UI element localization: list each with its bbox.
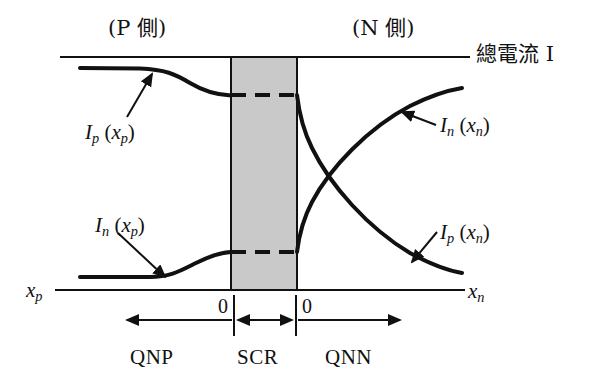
ip-xn-open-paren: ( xyxy=(454,220,466,244)
ip-xn-arg: x xyxy=(466,220,475,244)
leader-in-xp xyxy=(118,233,165,277)
in-xp-arg: x xyxy=(121,213,130,237)
label-total-current: 總電流 I xyxy=(476,44,554,65)
label-p-side: (P 側) xyxy=(108,18,166,39)
in-xp-symbol: I xyxy=(95,213,102,237)
label-in-xn: In (xn) xyxy=(440,115,490,138)
ip-xp-arg-subscript: p xyxy=(121,130,128,146)
ip-xn-close-paren: ) xyxy=(483,220,490,244)
xp-axis-symbol: x xyxy=(26,278,35,302)
curve-ip-xp xyxy=(80,68,231,96)
leader-in-xn xyxy=(402,112,436,125)
curve-in-xp xyxy=(80,252,231,277)
curve-in-xn xyxy=(297,88,462,252)
label-ip-xn: Ip (xn) xyxy=(440,222,490,245)
ip-xn-arg-subscript: n xyxy=(476,230,483,246)
xn-axis-symbol: x xyxy=(468,279,477,303)
label-region-scr: SCR xyxy=(237,347,278,368)
label-region-qnp: QNP xyxy=(130,347,174,368)
label-region-qnn: QNN xyxy=(325,347,372,368)
in-xn-arg: x xyxy=(466,113,475,137)
label-xp-axis: xp xyxy=(26,280,42,303)
in-xn-close-paren: ) xyxy=(483,113,490,137)
ip-xp-arg: x xyxy=(111,120,120,144)
xp-axis-subscript: p xyxy=(35,288,42,304)
leader-ip-xp xyxy=(127,74,152,117)
figure-pn-junction-currents: (P 側) (N 側) 總電流 I Ip (xp) In (xp) In (xn… xyxy=(0,0,594,386)
ip-xp-close-paren: ) xyxy=(128,120,135,144)
in-xn-symbol: I xyxy=(440,113,447,137)
in-xp-close-paren: ) xyxy=(138,213,145,237)
in-xp-arg-subscript: p xyxy=(131,223,138,239)
label-origin-right: 0 xyxy=(302,296,312,316)
in-xn-arg-subscript: n xyxy=(476,123,483,139)
ip-xn-symbol: I xyxy=(440,220,447,244)
ip-xp-symbol: I xyxy=(85,120,92,144)
in-xp-open-paren: ( xyxy=(109,213,121,237)
leader-ip-xn xyxy=(412,232,437,262)
in-xn-open-paren: ( xyxy=(454,113,466,137)
ip-xp-open-paren: ( xyxy=(99,120,111,144)
label-ip-xp: Ip (xp) xyxy=(85,122,135,145)
label-origin-left: 0 xyxy=(218,296,228,316)
label-n-side: (N 側) xyxy=(352,18,414,39)
scr-shaded-region xyxy=(231,57,297,290)
label-xn-axis: xn xyxy=(468,281,484,304)
label-in-xp: In (xp) xyxy=(95,215,145,238)
xn-axis-subscript: n xyxy=(477,289,484,305)
